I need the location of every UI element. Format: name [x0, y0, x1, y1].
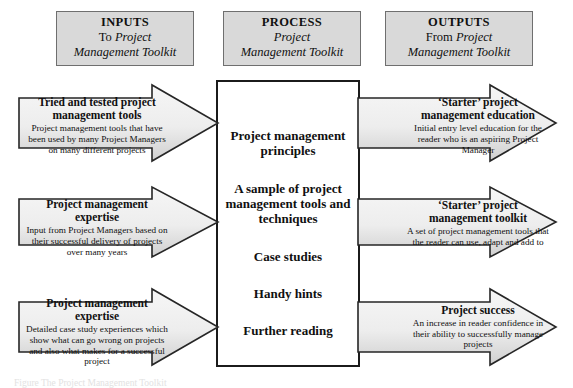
- input-arrow-3-title: Project management expertise: [26, 297, 168, 323]
- header-outputs-title: OUTPUTS: [386, 15, 532, 30]
- header-box-inputs: INPUTS To Project Management Toolkit: [56, 11, 194, 66]
- output-arrow-3-body: An increase in reader confidence in thei…: [407, 318, 549, 350]
- output-arrow-1-body: Initial entry level education for the re…: [407, 123, 549, 155]
- input-arrow-3: Project management expertise Detailed ca…: [18, 288, 219, 366]
- header-inputs-line2-prefix: To: [99, 30, 115, 44]
- process-item-list: Project management principles A sample o…: [218, 128, 358, 361]
- output-arrow-1-text: ‘Starter’ project management education I…: [407, 96, 549, 155]
- input-arrow-1-body: Project management tools that have been …: [26, 123, 168, 155]
- header-inputs-line2-italic: Project: [115, 30, 151, 44]
- header-process-line3: Management Toolkit: [224, 45, 360, 60]
- header-outputs-line2: From Project: [386, 30, 532, 45]
- input-arrow-2-text: Project management expertise Input from …: [26, 198, 168, 257]
- input-arrow-2-title: Project management expertise: [26, 198, 168, 224]
- input-arrow-3-body: Detailed case study experiences which sh…: [26, 324, 168, 367]
- output-arrow-2-title: ‘Starter’ project management toolkit: [407, 199, 549, 225]
- process-item: Further reading: [218, 323, 358, 338]
- input-arrow-1-title: Tried and tested project management tool…: [26, 96, 168, 122]
- header-process-line2-italic: Project: [274, 30, 310, 44]
- output-arrow-3-text: Project success An increase in reader co…: [407, 304, 549, 350]
- header-box-outputs: OUTPUTS From Project Management Toolkit: [385, 11, 533, 66]
- input-arrow-2: Project management expertise Input from …: [18, 186, 219, 258]
- header-box-process: PROCESS Project Management Toolkit: [223, 11, 361, 66]
- output-arrow-1-title: ‘Starter’ project management education: [407, 96, 549, 122]
- process-item: A sample of project management tools and…: [218, 181, 358, 227]
- header-process-line2: Project: [224, 30, 360, 45]
- output-arrow-2-body: A set of project management tools that t…: [407, 226, 549, 247]
- input-arrow-3-text: Project management expertise Detailed ca…: [26, 297, 168, 367]
- process-item: Case studies: [218, 249, 358, 264]
- header-process-title: PROCESS: [224, 15, 360, 30]
- input-arrow-1-text: Tried and tested project management tool…: [26, 96, 168, 155]
- output-arrow-1: ‘Starter’ project management education I…: [357, 84, 557, 162]
- process-box: Project management principles A sample o…: [216, 80, 360, 367]
- output-arrow-2: ‘Starter’ project management toolkit A s…: [357, 186, 557, 258]
- header-inputs-line2: To Project: [57, 30, 193, 45]
- figure-caption: Figure The Project Management Toolkit: [14, 378, 344, 388]
- process-item: Handy hints: [218, 286, 358, 301]
- output-arrow-3-title: Project success: [407, 304, 549, 317]
- header-outputs-line2-italic: Project: [456, 30, 492, 44]
- header-outputs-line2-prefix: From: [426, 30, 456, 44]
- output-arrow-2-text: ‘Starter’ project management toolkit A s…: [407, 199, 549, 248]
- input-arrow-2-body: Input from Project Managers based on the…: [26, 225, 168, 257]
- header-outputs-line3: Management Toolkit: [386, 45, 532, 60]
- output-arrow-3: Project success An increase in reader co…: [357, 288, 557, 366]
- process-item: Project management principles: [218, 128, 358, 159]
- input-arrow-1: Tried and tested project management tool…: [18, 84, 219, 162]
- header-inputs-title: INPUTS: [57, 15, 193, 30]
- header-inputs-line3: Management Toolkit: [57, 45, 193, 60]
